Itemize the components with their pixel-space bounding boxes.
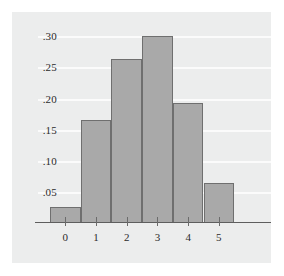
figure-canvas: .30 .25 .20 .15 .10 .05 0 1 2 <box>0 0 284 276</box>
xtick-label-5: 5 <box>209 232 229 243</box>
ytick-label-015: .15 <box>17 125 57 136</box>
x-axis-line <box>35 222 271 223</box>
xtick-label-1: 1 <box>86 232 106 243</box>
ytick-label-005: .05 <box>17 187 57 198</box>
xtick-mark-5 <box>219 217 220 226</box>
ytick-label-020: .20 <box>17 94 57 105</box>
xtick-mark-2 <box>127 217 128 226</box>
xtick-mark-3 <box>157 217 158 226</box>
ytick-label-010: .10 <box>17 156 57 167</box>
bar-4 <box>173 103 204 223</box>
bar-1 <box>81 120 112 223</box>
xtick-label-2: 2 <box>117 232 137 243</box>
xtick-mark-1 <box>96 217 97 226</box>
xtick-label-3: 3 <box>147 232 167 243</box>
ytick-label-030: .30 <box>17 31 57 42</box>
plot-area: .30 .25 .20 .15 .10 .05 0 1 2 <box>12 12 271 263</box>
xtick-mark-4 <box>188 217 189 226</box>
bar-3 <box>142 36 173 223</box>
chart-panel: .30 .25 .20 .15 .10 .05 0 1 2 <box>12 12 271 263</box>
xtick-label-0: 0 <box>55 232 75 243</box>
ytick-label-025: .25 <box>17 62 57 73</box>
xtick-mark-0 <box>65 217 66 226</box>
bar-2 <box>111 59 142 223</box>
xtick-label-4: 4 <box>178 232 198 243</box>
